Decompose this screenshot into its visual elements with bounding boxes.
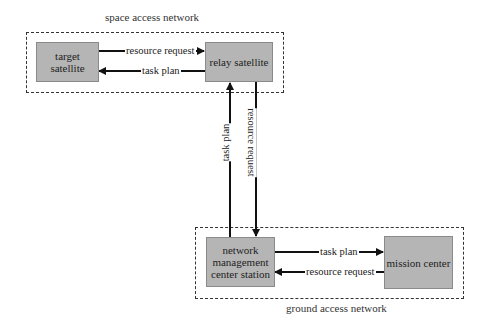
nmcs-line3: center station [211, 268, 270, 280]
target-satellite-line1: target [55, 50, 80, 62]
mission-center-node: mission center [384, 236, 453, 289]
edge-label-relay-to-target: task plan [141, 65, 181, 76]
network-management-center-station-node: network management center station [206, 237, 275, 287]
edge-label-nmcs-to-relay: task plan [220, 124, 231, 162]
edge-label-nmcs-to-mission: task plan [319, 246, 359, 257]
edge-label-mission-to-nmcs: resource request [305, 266, 376, 277]
nmcs-line1: network [222, 244, 258, 256]
target-satellite-node: target satellite [36, 42, 99, 82]
relay-satellite-label: relay satellite [210, 56, 269, 68]
edge-label-target-to-relay: resource request [125, 45, 196, 56]
target-satellite-line2: satellite [50, 62, 84, 74]
edge-label-relay-to-nmcs: resource request [246, 108, 257, 177]
relay-satellite-node: relay satellite [205, 42, 273, 82]
nmcs-line2: management [212, 256, 268, 268]
mission-center-label: mission center [387, 257, 451, 269]
